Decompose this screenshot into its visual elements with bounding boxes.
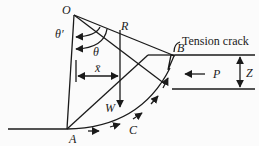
label-W: W bbox=[105, 101, 116, 115]
cohesion-arrow bbox=[110, 124, 120, 127]
label-O: O bbox=[62, 3, 71, 17]
label-Z: Z bbox=[246, 66, 253, 80]
slope-face bbox=[67, 55, 148, 129]
label-C: C bbox=[129, 123, 138, 137]
label-tension-crack: Tension crack bbox=[182, 34, 249, 48]
tension-crack bbox=[168, 55, 174, 70]
label-x-bar: x̄ bbox=[94, 61, 101, 75]
theta-prime-arc bbox=[76, 27, 100, 37]
label-R: R bbox=[120, 19, 129, 33]
cohesion-arrow bbox=[151, 96, 158, 104]
label-A: A bbox=[68, 132, 77, 146]
theta-arc bbox=[76, 29, 107, 49]
label-theta-prime: θ′ bbox=[55, 27, 64, 41]
radius-line-OA bbox=[67, 15, 74, 129]
cohesion-arrow bbox=[133, 113, 142, 119]
label-P: P bbox=[212, 67, 221, 81]
label-theta: θ bbox=[93, 45, 99, 59]
slip-circle-arc bbox=[67, 68, 170, 129]
diagram-svg: O R θ′ θ x̄ W A B C P Z Tension crack bbox=[0, 0, 259, 146]
slope-diagram: O R θ′ θ x̄ W A B C P Z Tension crack bbox=[0, 0, 259, 146]
